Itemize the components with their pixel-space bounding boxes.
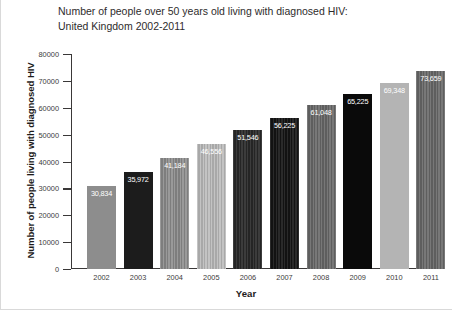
y-tick-mark — [63, 54, 71, 55]
bar-2003: 35,972 — [124, 172, 153, 269]
y-tick-label: 70000 — [0, 77, 59, 86]
bar-2006: 51,546 — [233, 130, 262, 269]
y-tick-mark — [63, 81, 71, 82]
bar-2005: 46,556 — [197, 144, 226, 269]
bar-value-label: 61,048 — [307, 108, 336, 117]
y-tick-mark — [63, 188, 71, 189]
bar-value-label: 65,225 — [343, 97, 372, 106]
y-tick-mark — [63, 215, 71, 216]
y-tick-mark — [63, 242, 71, 243]
bar-value-label: 73,659 — [416, 74, 445, 83]
y-tick-mark — [63, 162, 71, 163]
bar-2002: 30,834 — [87, 186, 116, 269]
bar-2008: 61,048 — [307, 105, 336, 269]
y-tick-mark — [63, 108, 71, 109]
y-tick-label: 50000 — [0, 131, 59, 140]
y-tick-label: 10000 — [0, 238, 59, 247]
bar-value-label: 56,225 — [270, 121, 299, 130]
y-tick-label: 80000 — [0, 50, 59, 59]
y-tick-label: 40000 — [0, 158, 59, 167]
bar-value-label: 46,556 — [197, 147, 226, 156]
bar-value-label: 41,184 — [160, 161, 189, 170]
x-tick-label-2011: 2011 — [408, 273, 452, 282]
chart-title: Number of people over 50 years old livin… — [58, 4, 428, 33]
y-tick-label: 20000 — [0, 211, 59, 220]
plot-area: 0100002000030000400005000060000700008000… — [71, 54, 443, 269]
x-axis-title: Year — [0, 288, 452, 299]
bar-2010: 69,348 — [380, 83, 409, 269]
bar-2011: 73,659 — [416, 71, 445, 269]
y-tick-label: 0 — [0, 265, 59, 274]
y-tick-label: 30000 — [0, 184, 59, 193]
y-axis-line — [71, 54, 72, 269]
y-tick-mark — [63, 269, 71, 270]
bar-2004: 41,184 — [160, 158, 189, 269]
y-tick-mark — [63, 135, 71, 136]
bar-value-label: 69,348 — [380, 86, 409, 95]
y-tick-label: 60000 — [0, 104, 59, 113]
bar-2007: 56,225 — [270, 118, 299, 269]
bar-value-label: 51,546 — [233, 133, 262, 142]
bar-2009: 65,225 — [343, 94, 372, 269]
bar-value-label: 30,834 — [87, 189, 116, 198]
bar-value-label: 35,972 — [124, 175, 153, 184]
page-edge-left — [0, 0, 1, 310]
